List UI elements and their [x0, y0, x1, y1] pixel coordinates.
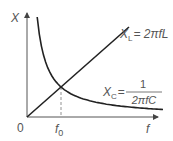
xc-formula-eq: = — [118, 85, 125, 99]
xc-formula-numerator: 1 — [140, 78, 146, 90]
xc-formula-denominator: 2πfC — [131, 94, 157, 106]
f0-tick-label: f0 — [55, 122, 63, 138]
origin-label: 0 — [17, 121, 24, 135]
reactance-diagram: X f 0 f0 XL= 2πfL XC= 1 2πfC — [0, 0, 173, 141]
xc-series-label: XC= — [102, 85, 125, 101]
xl-series-line — [27, 27, 129, 117]
xl-formula: = 2πfL — [133, 27, 168, 41]
x-axis-label: f — [146, 122, 151, 136]
xl-series-label: XL= 2πfL — [119, 27, 169, 43]
f0-sub: 0 — [58, 128, 63, 138]
xl-label-sub: L — [128, 34, 133, 43]
xc-label-sub: C — [111, 92, 117, 101]
y-axis-label: X — [10, 11, 20, 25]
